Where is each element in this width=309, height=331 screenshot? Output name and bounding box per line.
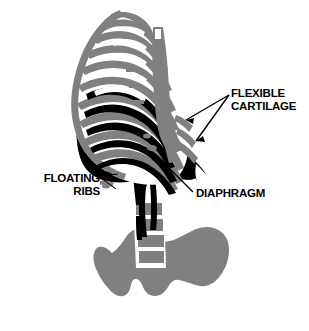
anatomy-diagram-page: FLEXIBLECARTILAGE FLOATINGRIBS DIAPHRAGM bbox=[0, 0, 309, 331]
label-floating-ribs-line1: FLOATING bbox=[44, 172, 100, 184]
label-flexible-cartilage-line2: CARTILAGE bbox=[231, 100, 296, 112]
leader-flexible-cartilage bbox=[186, 95, 229, 142]
label-flexible-cartilage-line1: FLEXIBLE bbox=[231, 87, 285, 99]
label-flexible-cartilage: FLEXIBLECARTILAGE bbox=[231, 87, 296, 112]
label-diaphragm: DIAPHRAGM bbox=[196, 187, 265, 200]
label-floating-ribs-line2: RIBS bbox=[73, 185, 100, 197]
label-floating-ribs: FLOATINGRIBS bbox=[12, 172, 100, 197]
rib-cage-illustration bbox=[0, 0, 309, 331]
